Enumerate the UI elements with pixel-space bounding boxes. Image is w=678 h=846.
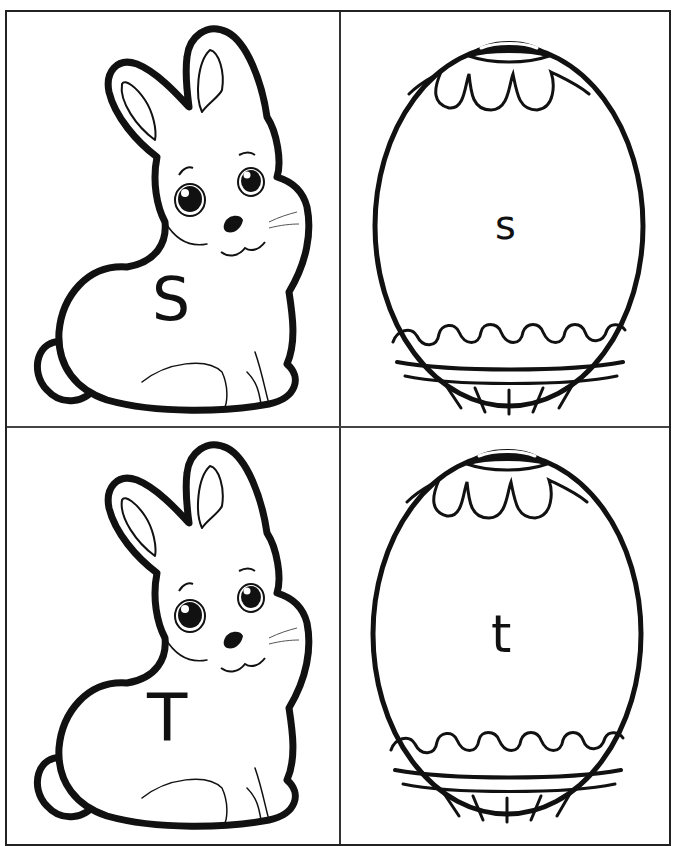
letter-uppercase-t: T <box>147 680 187 757</box>
bunny-icon <box>7 12 339 426</box>
card-egg-lowercase-t[interactable]: t <box>341 428 673 842</box>
bunny-icon <box>7 428 339 842</box>
page-title-partial <box>0 0 678 8</box>
letter-lowercase-t: t <box>491 604 511 664</box>
letter-uppercase-s: S <box>152 264 190 334</box>
card-bunny-uppercase-t[interactable]: T <box>7 428 339 842</box>
letter-lowercase-s: s <box>495 202 516 248</box>
card-bunny-uppercase-s[interactable]: S <box>7 12 339 426</box>
card-grid: S <box>5 10 671 846</box>
card-egg-lowercase-s[interactable]: s <box>341 12 673 426</box>
